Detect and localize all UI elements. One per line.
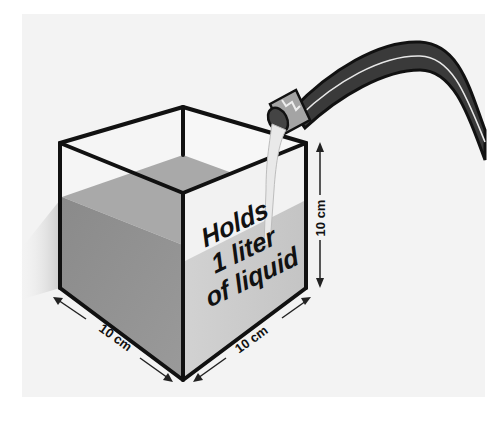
cube-shadow	[20, 200, 60, 300]
height-label: 10 cm	[313, 200, 328, 237]
liter-cube-diagram: Holds 1 liter of liquid 10 cm 10 cm 10 c…	[0, 0, 502, 421]
